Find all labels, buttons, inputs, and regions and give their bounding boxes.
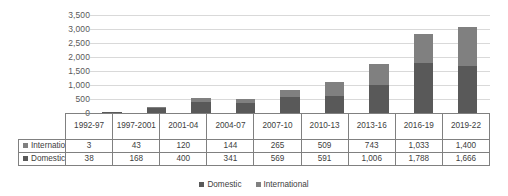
bar-stack [236,99,256,113]
table-cell: 743 [348,140,395,153]
table-cell: 265 [254,140,301,153]
y-axis-tick-label: 3,500 [44,11,90,19]
plot-area: 05001,0001,5002,0002,5003,0003,500 [0,0,508,118]
legend-swatch-icon [199,182,204,187]
bar-stack [191,98,211,113]
series-swatch-icon [23,143,28,148]
table-column-header: 2019-22 [442,114,489,140]
stacked-column-chart-with-data-table: 05001,0001,5002,0002,5003,0003,500 1992-… [0,0,508,196]
bar-segment-international [414,34,434,63]
table-row: International3431201442655097431,0331,40… [19,140,490,153]
bar-stack [280,90,300,113]
table-column-header: 2010-13 [301,114,348,140]
legend-label: International [264,180,309,189]
table-cell: 168 [113,153,160,166]
chart-legend: DomesticInternational [0,180,508,189]
table-column-header: 2001-04 [160,114,207,140]
y-axis-tick-label: 1,500 [44,67,90,75]
table-cell: 400 [160,153,207,166]
table-corner-cell [19,114,66,140]
bar-column [134,15,178,113]
table-row-label: International [31,141,66,150]
table-row-label: Domestic [31,154,65,163]
bar-segment-domestic [325,96,345,113]
y-axis-tick-label: 500 [44,95,90,103]
bar-segment-domestic [280,97,300,113]
y-axis-tick-label: 3,000 [44,25,90,33]
table-column-header: 2016-19 [395,114,442,140]
table-row: Domestic381684003415695911,0061,7881,666 [19,153,490,166]
bar-segment-international [458,27,478,66]
legend-item[interactable]: International [256,180,309,189]
bar-segment-international [325,82,345,96]
legend-label: Domestic [207,180,241,189]
table-cell: 341 [207,153,254,166]
table-cell: 144 [207,140,254,153]
table-row-header: Domestic [19,153,66,166]
y-axis-tick-labels: 05001,0001,5002,0002,5003,0003,500 [42,0,90,98]
table-cell: 591 [301,153,348,166]
bar-series-container [90,15,490,113]
bar-segment-domestic [236,103,256,113]
legend-swatch-icon [256,182,261,187]
table-cell: 569 [254,153,301,166]
data-table: 1992-971997-20012001-042004-072007-10201… [18,113,490,166]
bar-column [446,15,490,113]
bar-segment-domestic [369,85,389,113]
bar-stack [369,64,389,113]
bar-segment-domestic [191,102,211,113]
table-column-header: 1997-2001 [113,114,160,140]
table-cell: 1,788 [395,153,442,166]
y-axis-tick-label: 2,000 [44,53,90,61]
y-axis-tick-label: 2,500 [44,39,90,47]
bar-column [268,15,312,113]
y-axis-tick-label: 1,000 [44,81,90,89]
table-header-row: 1992-971997-20012001-042004-072007-10201… [19,114,490,140]
table-cell: 1,006 [348,153,395,166]
legend-item[interactable]: Domestic [199,180,241,189]
table-cell: 3 [66,140,113,153]
table-column-header: 1992-97 [66,114,113,140]
series-swatch-icon [23,156,28,161]
table-row-header: International [19,140,66,153]
table-cell: 1,400 [442,140,489,153]
table-cell: 509 [301,140,348,153]
table-cell: 120 [160,140,207,153]
bar-stack [458,27,478,113]
table-cell: 43 [113,140,160,153]
table-cell: 38 [66,153,113,166]
bar-segment-international [280,90,300,97]
bar-column [179,15,223,113]
bar-segment-international [369,64,389,85]
data-table-wrapper: 1992-971997-20012001-042004-072007-10201… [18,113,490,166]
bar-stack [325,82,345,113]
bar-column [90,15,134,113]
bar-segment-domestic [458,66,478,113]
bar-column [223,15,267,113]
bar-stack [414,34,434,113]
bar-column [312,15,356,113]
bar-segment-domestic [414,63,434,113]
table-column-header: 2004-07 [207,114,254,140]
bar-column [357,15,401,113]
table-column-header: 2013-16 [348,114,395,140]
bar-column [401,15,445,113]
table-column-header: 2007-10 [254,114,301,140]
table-cell: 1,033 [395,140,442,153]
table-cell: 1,666 [442,153,489,166]
